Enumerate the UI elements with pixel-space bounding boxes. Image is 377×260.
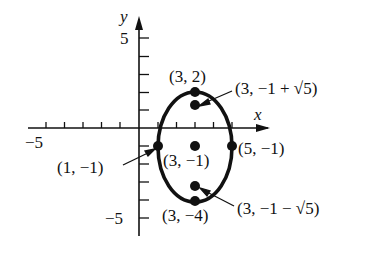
arrow-head-icon [199, 99, 210, 106]
label-top-vertex: (3, 2) [169, 67, 206, 86]
label-left-vertex: (1, −1) [57, 158, 103, 177]
arrow-head-icon [200, 188, 210, 196]
point-bottom-vertex [190, 196, 200, 206]
point-top-vertex [190, 87, 200, 97]
x-axis-label: x [253, 105, 262, 124]
ellipse-figure: x y 5 −5 −5 (3, 2) (3, −1 + √5) (5, −1) … [0, 0, 377, 260]
y-tick-neg5: −5 [105, 209, 123, 228]
arrow-head-icon [145, 149, 155, 156]
point-right-vertex [227, 141, 237, 151]
x-axis-arrow-icon [256, 124, 270, 132]
y-tick-5: 5 [120, 29, 129, 48]
y-axis [135, 16, 149, 236]
x-tick-neg5: −5 [25, 133, 43, 152]
label-bottom-vertex: (3, −4) [162, 206, 208, 225]
label-focus-lower: (3, −1 − √5) [237, 199, 319, 218]
point-focus-lower [190, 181, 200, 191]
point-center [190, 141, 200, 151]
label-center: (3, −1) [163, 151, 209, 170]
label-right-vertex: (5, −1) [238, 139, 284, 158]
point-focus-upper [190, 100, 200, 110]
y-axis-arrow-icon [135, 16, 143, 30]
x-axis [28, 122, 270, 132]
label-focus-upper: (3, −1 + √5) [235, 79, 317, 98]
y-axis-label: y [118, 7, 128, 26]
